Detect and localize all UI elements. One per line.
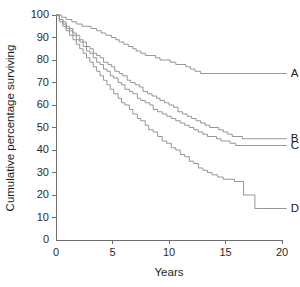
x-tick-label: 15 [219,246,231,258]
survival-curve-a [56,15,275,74]
x-tick-label: 5 [109,246,115,258]
y-tick-label: 60 [37,98,49,110]
y-tick-label: 80 [37,53,49,65]
y-axis-ticks: 0102030405060708090100 [31,8,56,245]
series-labels-group: ABCD [262,67,299,214]
x-tick-label: 20 [276,246,288,258]
x-tick-label: 0 [53,246,59,258]
x-tick-label: 10 [163,246,175,258]
x-axis-title: Years [155,266,184,278]
survival-curve-b [56,15,275,139]
y-tick-label: 50 [37,121,49,133]
survival-curve-c [56,15,275,146]
y-tick-label: 70 [37,76,49,88]
series-label-a: A [291,67,299,79]
survival-curves-group [56,15,275,209]
y-tick-label: 0 [43,233,49,245]
chart-canvas: 0102030405060708090100 05101520 ABCD Yea… [0,0,300,287]
y-axis-group: 0102030405060708090100 [31,8,56,245]
survival-chart-figure: 0102030405060708090100 05101520 ABCD Yea… [0,0,300,287]
y-tick-label: 90 [37,31,49,43]
series-label-c: C [291,139,299,151]
x-axis-ticks: 05101520 [53,240,288,258]
y-tick-label: 100 [31,8,49,20]
y-tick-label: 40 [37,143,49,155]
y-tick-label: 30 [37,166,49,178]
y-tick-label: 20 [37,188,49,200]
x-axis-group: 05101520 [53,240,288,258]
series-label-d: D [291,202,299,214]
y-tick-label: 10 [37,211,49,223]
y-axis-title: Cumulative percentage surviving [4,45,16,212]
